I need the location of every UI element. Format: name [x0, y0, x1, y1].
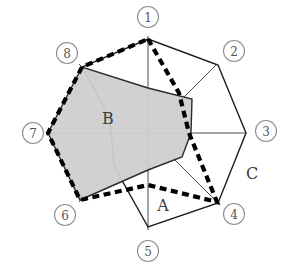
radar-chart-figure: 12345678 ABC [0, 0, 290, 271]
series-label-c: C [246, 164, 258, 183]
axis-tick-label-6: 6 [55, 205, 76, 226]
axis-tick-label-1: 1 [138, 7, 159, 28]
tick-label-text: 6 [61, 209, 69, 223]
axis-tick-label-4: 4 [224, 204, 245, 225]
axis-tick-label-3: 3 [256, 121, 277, 142]
tick-label-text: 4 [230, 208, 238, 222]
axis-tick-label-7: 7 [23, 123, 44, 144]
tick-label-text: 3 [262, 125, 270, 139]
axis-tick-label-2: 2 [224, 41, 245, 62]
series-label-b: B [102, 109, 114, 128]
series-label-a: A [156, 196, 169, 215]
tick-label-text: 5 [144, 245, 152, 259]
radar-chart-canvas: 12345678 ABC [0, 0, 290, 271]
tick-label-text: 2 [230, 45, 238, 59]
tick-label-text: 1 [144, 11, 152, 25]
axis-tick-label-8: 8 [57, 43, 78, 64]
tick-label-text: 8 [63, 47, 71, 61]
tick-label-text: 7 [29, 127, 37, 141]
axis-tick-label-5: 5 [138, 241, 159, 262]
